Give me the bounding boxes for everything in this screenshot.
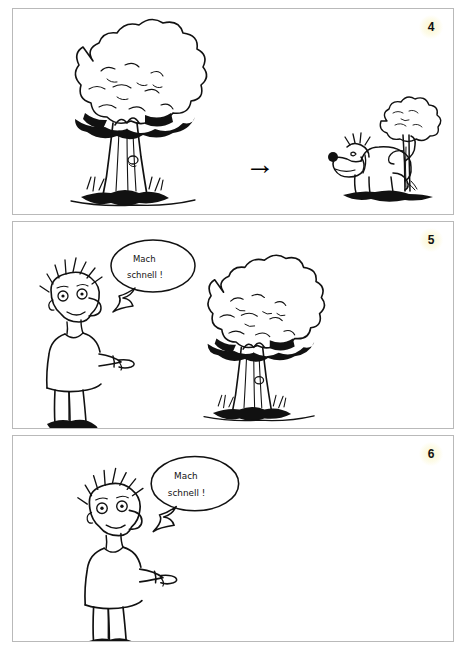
panel-number-badge: 4	[419, 15, 443, 39]
panel-4-stage: →	[13, 9, 453, 214]
arrow-icon: →	[245, 149, 275, 179]
panel-number-badge: 5	[419, 228, 443, 252]
speech-line-1: Mach	[174, 471, 198, 481]
big-tree-icon	[177, 262, 327, 422]
speech-line-1: Mach	[133, 254, 156, 264]
panel-number-badge: 6	[419, 442, 443, 466]
speech-line-2: schnell !	[168, 488, 205, 498]
worksheet-page: 4	[0, 0, 466, 652]
panel-5-stage: Mach schnell ! +	[13, 222, 453, 427]
comic-panel-4[interactable]: 4	[12, 8, 454, 215]
comic-panel-6[interactable]: 6	[12, 435, 454, 642]
dog-at-tree-icon	[325, 95, 453, 207]
panel-6-stage: Mach schnell ! →	[13, 436, 453, 641]
speech-bubble: Mach schnell !	[147, 450, 247, 534]
comic-panel-5[interactable]: 5	[12, 221, 454, 428]
big-tree-icon	[41, 27, 209, 207]
speech-line-2: schnell !	[127, 270, 163, 280]
